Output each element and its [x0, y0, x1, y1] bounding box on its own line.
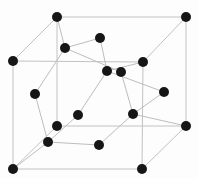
crystal-structure-diagram [0, 0, 198, 179]
atom-dot-corner-front-top-right [138, 57, 148, 67]
atom-dot-corner-back-bottom-left [52, 121, 62, 131]
bond-line [133, 92, 164, 114]
atom-dot-corner-front-top-left [8, 56, 18, 66]
bond-line [48, 115, 78, 142]
atom-dot-face-center-front [73, 110, 83, 120]
cube-edge-line [13, 17, 57, 61]
bond-line [13, 142, 48, 169]
bond-line [65, 38, 100, 48]
atom-dot-corner-front-bottom-right [137, 164, 147, 174]
bond-line [65, 48, 121, 72]
atom-dot-face-center-right [159, 87, 169, 97]
cube-edge-line [143, 17, 186, 62]
bond-line [100, 38, 107, 71]
cube-edge-line [13, 126, 57, 169]
atom-dot-face-center-left [30, 89, 40, 99]
cube-edge-line [13, 61, 143, 62]
bond-line [133, 114, 186, 126]
bond-line [99, 114, 133, 145]
lattice-svg [0, 0, 198, 179]
cube-edge-line [142, 126, 186, 169]
bond-line [107, 71, 164, 92]
bond-line [35, 94, 48, 142]
atom-dot-interior-top-right [102, 66, 112, 76]
atom-dot-corner-back-top-left [52, 12, 62, 22]
atom-dot-face-center-bottom [94, 140, 104, 150]
atom-dot-interior-bottom-left [43, 137, 53, 147]
atom-dot-interior-bottom-right [128, 109, 138, 119]
atom-dot-face-center-back [116, 67, 126, 77]
bond-line [48, 142, 99, 145]
atom-dot-corner-back-top-right [181, 12, 191, 22]
atom-dot-face-center-top [95, 33, 105, 43]
bond-line [78, 71, 107, 115]
cube-edge-line [142, 62, 143, 169]
atom-dot-corner-front-bottom-left [8, 164, 18, 174]
atom-dot-interior-top-left [60, 43, 70, 53]
bond-line [35, 48, 65, 94]
atom-dot-corner-back-bottom-right [181, 121, 191, 131]
